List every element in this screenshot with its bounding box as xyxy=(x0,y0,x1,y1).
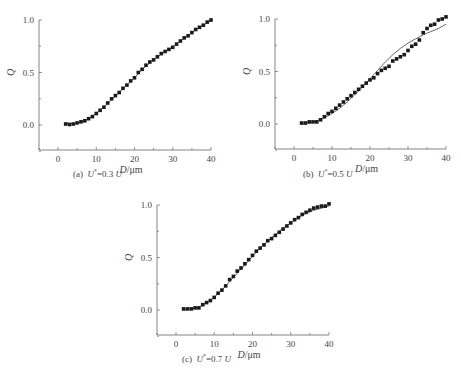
data-point-marker xyxy=(323,204,327,208)
data-point-marker xyxy=(160,52,164,56)
caption-prefix: (b) xyxy=(303,169,314,179)
data-point-marker xyxy=(326,112,330,116)
data-point-marker xyxy=(182,307,186,311)
data-point-marker xyxy=(212,296,216,300)
data-point-marker xyxy=(383,67,387,71)
data-point-marker xyxy=(315,120,319,124)
data-point-marker xyxy=(235,269,239,273)
caption-unit: U xyxy=(346,169,353,179)
x-axis-title: D/μm xyxy=(354,163,378,174)
data-point-marker xyxy=(357,88,361,92)
data-point-marker xyxy=(220,288,224,292)
data-point-marker xyxy=(258,246,262,250)
y-tick-label: 0.0 xyxy=(23,120,35,130)
data-point-marker xyxy=(87,117,91,121)
data-point-marker xyxy=(395,57,399,61)
data-point-marker xyxy=(308,208,312,212)
data-point-marker xyxy=(95,112,99,116)
data-point-marker xyxy=(316,205,320,209)
data-point-marker xyxy=(190,307,194,311)
data-point-marker xyxy=(91,115,95,119)
caption-equation: =0.7 xyxy=(206,354,222,364)
data-point-marker xyxy=(152,58,156,62)
caption-panel-a: (a) U*=0.3 U xyxy=(73,168,122,179)
x-tick-label: 10 xyxy=(92,154,102,164)
data-point-marker xyxy=(297,216,301,220)
data-point-marker xyxy=(376,72,380,76)
x-tick-label: 30 xyxy=(286,339,296,349)
data-point-marker xyxy=(278,231,282,235)
data-point-marker xyxy=(380,69,384,73)
data-point-marker xyxy=(444,15,448,19)
caption-equation: =0.3 xyxy=(97,169,113,179)
x-axis-title: D/μm xyxy=(236,349,260,360)
data-point-marker xyxy=(202,23,206,27)
data-point-marker xyxy=(274,234,278,238)
y-axis-title: Q xyxy=(123,253,134,261)
data-point-marker xyxy=(243,262,247,266)
data-point-marker xyxy=(232,275,236,279)
chart-panel-b: 0.00.51.0010203040D/μmQ xyxy=(241,14,451,174)
x-tick-label: 40 xyxy=(325,339,335,349)
y-tick-label: 0.5 xyxy=(141,253,153,263)
data-point-marker xyxy=(300,121,304,125)
data-point-marker xyxy=(387,65,391,69)
data-point-marker xyxy=(311,120,315,124)
data-point-marker xyxy=(175,42,179,46)
data-point-marker xyxy=(186,307,190,311)
data-point-marker xyxy=(194,28,198,32)
data-point-marker xyxy=(330,110,334,114)
data-point-marker xyxy=(167,48,171,52)
caption-prefix: (c) xyxy=(182,354,192,364)
y-tick-label: 0.5 xyxy=(259,67,271,77)
data-point-marker xyxy=(410,45,414,49)
data-point-marker xyxy=(361,84,365,88)
data-point-marker xyxy=(364,81,368,85)
data-point-marker xyxy=(440,17,444,21)
data-point-marker xyxy=(255,249,259,253)
data-point-marker xyxy=(209,18,213,22)
x-tick-label: 20 xyxy=(366,153,376,163)
x-tick-label: 10 xyxy=(328,153,338,163)
data-point-marker xyxy=(148,60,152,64)
data-point-marker xyxy=(102,105,106,109)
data-point-marker xyxy=(429,24,433,28)
data-point-marker xyxy=(323,115,327,119)
data-point-marker xyxy=(182,36,186,40)
x-tick-label: 40 xyxy=(207,154,217,164)
data-point-marker xyxy=(320,204,324,208)
data-point-marker xyxy=(205,20,209,24)
y-tick-label: 0.0 xyxy=(141,305,153,315)
y-tick-label: 1.0 xyxy=(259,14,271,24)
data-point-marker xyxy=(391,59,395,63)
data-point-marker xyxy=(289,221,293,225)
data-point-marker xyxy=(228,278,232,282)
data-point-marker xyxy=(414,42,418,46)
data-point-marker xyxy=(64,122,68,126)
data-point-marker xyxy=(300,213,304,217)
data-point-marker xyxy=(437,18,441,22)
data-point-marker xyxy=(327,202,331,206)
data-point-marker xyxy=(270,237,274,241)
data-point-marker xyxy=(224,284,228,288)
data-point-marker xyxy=(79,120,83,124)
data-point-marker xyxy=(144,63,148,67)
data-point-marker xyxy=(156,55,160,59)
data-point-marker xyxy=(133,76,137,80)
data-point-marker xyxy=(399,55,403,59)
data-point-marker xyxy=(307,120,311,124)
data-point-marker xyxy=(319,118,323,122)
chart-panel-c: 0.00.51.0010203040D/μmQ xyxy=(123,200,334,360)
data-point-marker xyxy=(338,103,342,107)
data-point-marker xyxy=(117,91,121,95)
data-point-marker xyxy=(372,76,376,80)
x-tick-label: 0 xyxy=(174,339,179,349)
data-point-marker xyxy=(190,31,194,35)
caption-equation: =0.5 xyxy=(328,169,344,179)
data-point-marker xyxy=(179,39,183,43)
y-tick-label: 0.5 xyxy=(23,68,35,78)
data-point-marker xyxy=(121,87,125,91)
data-point-marker xyxy=(239,266,243,270)
data-point-marker xyxy=(418,38,422,42)
data-point-marker xyxy=(293,218,297,222)
